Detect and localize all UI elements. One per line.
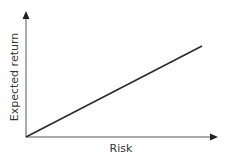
risk-return-chart: Risk Expected return [0,0,227,159]
y-axis-arrow-icon [23,11,30,19]
y-axis [23,11,30,137]
y-axis-label: Expected return [8,33,21,121]
x-axis-label: Risk [110,142,133,155]
risk-return-line [26,46,202,137]
x-axis-arrow-icon [210,134,218,141]
x-axis [26,134,218,141]
